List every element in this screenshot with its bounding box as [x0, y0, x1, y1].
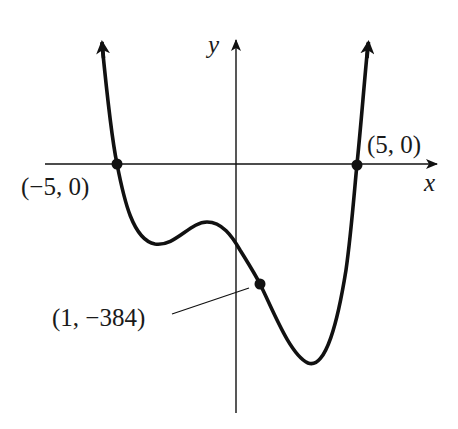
- point-dot-left: [112, 159, 123, 170]
- y-axis-label: y: [208, 32, 219, 57]
- x-axis-label: x: [424, 170, 435, 195]
- point-label-left: (−5, 0): [21, 174, 89, 199]
- curve-arrow-left: [102, 42, 104, 58]
- polynomial-graph: y x (5, 0) (−5, 0) (1, −384): [0, 0, 458, 429]
- point-dot-mid: [255, 279, 266, 290]
- point-label-mid: (1, −384): [52, 305, 145, 330]
- point-label-right: (5, 0): [367, 132, 421, 157]
- leader-line: [172, 288, 249, 314]
- graph-canvas: [0, 0, 458, 429]
- curve-arrow-right: [367, 42, 369, 58]
- point-dot-right: [352, 160, 363, 171]
